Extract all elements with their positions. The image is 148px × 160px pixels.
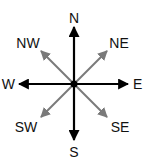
label-southeast: SE — [111, 119, 130, 135]
label-northwest: NW — [16, 35, 40, 51]
northwest-arrow — [41, 51, 74, 84]
label-west: W — [2, 76, 16, 92]
southwest-arrow — [41, 84, 74, 117]
southeast-arrow — [74, 84, 107, 117]
compass-rose-svg: N S E W NE NW SW SE — [0, 0, 148, 160]
label-east: E — [133, 76, 142, 92]
center-dot — [71, 81, 78, 88]
label-north: N — [69, 10, 79, 26]
label-northeast: NE — [109, 35, 128, 51]
label-south: S — [69, 144, 78, 160]
compass-rose-diagram: N S E W NE NW SW SE — [0, 0, 148, 160]
northeast-arrow — [74, 51, 107, 84]
label-southwest: SW — [15, 119, 38, 135]
